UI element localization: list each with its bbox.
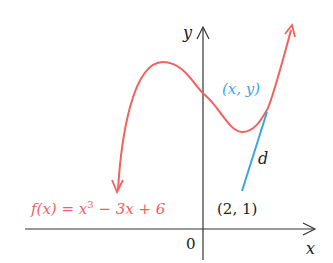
fixed-point-label: (2, 1) <box>217 200 257 218</box>
function-label: f(x) = x3 − 3x + 6 <box>30 199 166 218</box>
y-axis <box>197 27 209 260</box>
x-axis <box>25 223 315 235</box>
distance-label: d <box>258 149 268 168</box>
y-axis-label: y <box>182 23 193 42</box>
point-on-curve-label: (x, y) <box>222 80 260 98</box>
origin-label: 0 <box>186 235 196 253</box>
figure: y x 0 (x, y) d (2, 1) f(x) = x3 − 3x + 6 <box>0 0 333 263</box>
x-axis-label: x <box>306 239 315 258</box>
